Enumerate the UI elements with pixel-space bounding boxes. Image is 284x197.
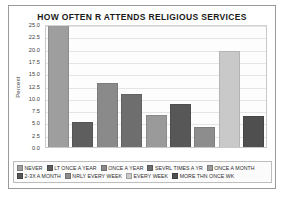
legend-item[interactable]: ONCE A MONTH	[207, 165, 255, 171]
y-axis-tick-label: 5.0	[32, 120, 40, 126]
chart-legend: NEVERLT ONCE A YEARONCE A YEARSEVRL TIME…	[13, 161, 272, 183]
y-axis-tick-label: 0.0	[32, 145, 40, 151]
bar	[146, 115, 167, 147]
bar	[48, 25, 69, 147]
legend-swatch-icon	[126, 173, 132, 179]
bar	[97, 83, 118, 147]
legend-item-label: ONCE A MONTH	[214, 165, 254, 171]
y-axis-tick-label: 12.5	[29, 84, 40, 90]
legend-swatch-icon	[65, 173, 71, 179]
legend-swatch-icon	[17, 165, 23, 171]
legend-item-label: ONCE A YEAR	[108, 165, 143, 171]
bar	[194, 127, 215, 147]
legend-item[interactable]: EVERY WEEK	[126, 173, 168, 179]
legend-swatch-icon	[207, 165, 213, 171]
y-axis-tick-label: 7.5	[32, 108, 40, 114]
legend-item-label: NRLY EVERY WEEK	[72, 173, 122, 179]
y-axis-tick-label: 22.5	[29, 34, 40, 40]
y-axis-tick-labels: 25.022.520.017.515.012.510.07.55.02.50.0	[9, 25, 43, 148]
y-axis-tick-label: 10.0	[29, 96, 40, 102]
legend-item-label: SEVRL TIMES A YR	[155, 165, 203, 171]
y-axis-tick-label: 17.5	[29, 59, 40, 65]
y-axis-tick-label: 2.5	[32, 133, 40, 139]
legend-item-label: LT ONCE A YEAR	[54, 165, 97, 171]
chart-title: HOW OFTEN R ATTENDS RELIGIOUS SERVICES	[9, 12, 275, 22]
y-axis-tick-label: 25.0	[29, 22, 40, 28]
legend-item[interactable]: 2-3X A MONTH	[17, 173, 61, 179]
legend-item-label: 2-3X A MONTH	[25, 173, 61, 179]
y-axis-tick-label: 20.0	[29, 47, 40, 53]
legend-item[interactable]: LT ONCE A YEAR	[47, 165, 97, 171]
legend-swatch-icon	[101, 165, 107, 171]
plot-wrapper	[45, 25, 267, 148]
bar	[170, 104, 191, 147]
legend-item-label: EVERY WEEK	[134, 173, 169, 179]
legend-row: NEVERLT ONCE A YEARONCE A YEARSEVRL TIME…	[17, 164, 269, 172]
legend-swatch-icon	[147, 165, 153, 171]
legend-item[interactable]: MORE THN ONCE WK	[172, 173, 234, 179]
legend-item[interactable]: SEVRL TIMES A YR	[147, 165, 202, 171]
legend-swatch-icon	[47, 165, 53, 171]
y-axis-tick-label: 15.0	[29, 71, 40, 77]
bar	[72, 122, 93, 147]
bar-series	[46, 26, 266, 147]
legend-swatch-icon	[172, 173, 178, 179]
legend-item-label: MORE THN ONCE WK	[180, 173, 235, 179]
bar	[121, 94, 142, 147]
legend-item[interactable]: NEVER	[17, 165, 43, 171]
legend-swatch-icon	[17, 173, 23, 179]
legend-item-label: NEVER	[25, 165, 43, 171]
plot-area	[45, 25, 267, 148]
legend-row: 2-3X A MONTHNRLY EVERY WEEKEVERY WEEKMOR…	[17, 172, 269, 180]
chart-frame: HOW OFTEN R ATTENDS RELIGIOUS SERVICES P…	[8, 5, 276, 189]
bar	[219, 51, 240, 147]
legend-item[interactable]: NRLY EVERY WEEK	[65, 173, 122, 179]
legend-item[interactable]: ONCE A YEAR	[101, 165, 144, 171]
bar	[243, 116, 264, 147]
